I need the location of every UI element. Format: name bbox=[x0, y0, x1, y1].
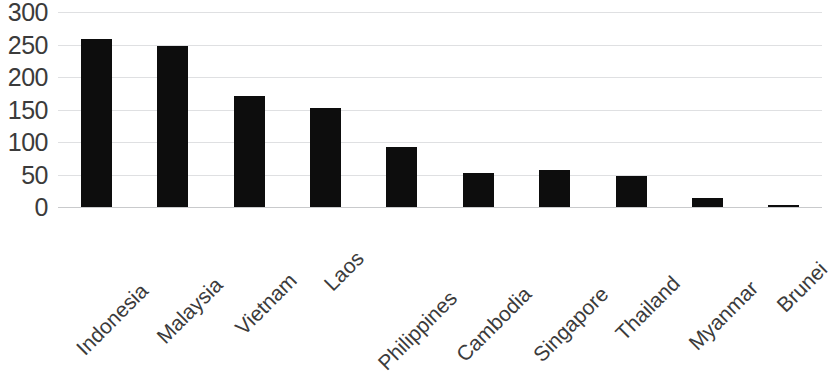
y-tick-label: 50 bbox=[21, 162, 48, 187]
x-tick-label-text: Myanmar bbox=[685, 277, 762, 354]
x-tick-label: Laos bbox=[321, 247, 368, 294]
y-tick-label: 0 bbox=[35, 195, 48, 220]
x-tick-label: Cambodia bbox=[453, 283, 536, 366]
y-tick-label: 150 bbox=[8, 97, 48, 122]
x-tick-label-text: Indonesia bbox=[72, 279, 151, 358]
y-axis: 050100150200250300 bbox=[0, 0, 56, 310]
x-tick-label: Singapore bbox=[529, 283, 612, 366]
plot-area bbox=[58, 12, 822, 207]
x-tick-label: Malaysia bbox=[152, 274, 225, 347]
bar bbox=[81, 39, 112, 207]
x-tick-label-text: Cambodia bbox=[453, 283, 536, 366]
x-tick-label: Myanmar bbox=[685, 277, 762, 354]
x-tick-label-text: Brunei bbox=[773, 258, 828, 316]
bar bbox=[692, 198, 723, 207]
x-tick-label: Thailand bbox=[612, 272, 684, 344]
x-tick-label-text: Singapore bbox=[529, 283, 612, 366]
x-tick-label-text: Vietnam bbox=[231, 269, 300, 338]
bars-layer bbox=[58, 12, 822, 207]
x-tick-label: Vietnam bbox=[231, 269, 300, 338]
bar bbox=[616, 176, 647, 207]
x-tick-label: Brunei bbox=[773, 258, 828, 316]
x-tick-label: Indonesia bbox=[72, 279, 151, 358]
bar bbox=[310, 108, 341, 207]
bar bbox=[157, 46, 188, 207]
y-tick-label: 100 bbox=[8, 130, 48, 155]
bar bbox=[539, 170, 570, 207]
bar bbox=[234, 96, 265, 207]
bar bbox=[463, 173, 494, 207]
x-tick-label-text: Malaysia bbox=[152, 274, 225, 347]
y-tick-label: 250 bbox=[8, 32, 48, 57]
bar bbox=[386, 147, 417, 207]
x-tick-label-text: Laos bbox=[321, 247, 368, 294]
x-tick-label-text: Philippines bbox=[374, 287, 461, 374]
y-tick-label: 200 bbox=[8, 65, 48, 90]
x-axis: IndonesiaMalaysiaVietnamLaosPhilippinesC… bbox=[58, 207, 822, 310]
x-tick-label-text: Thailand bbox=[612, 272, 684, 344]
y-tick-label: 300 bbox=[8, 0, 48, 25]
x-tick-label: Philippines bbox=[374, 287, 461, 374]
